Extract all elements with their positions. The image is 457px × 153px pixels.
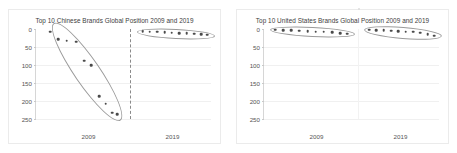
data-point-chinese-2009-8 xyxy=(104,103,107,106)
data-point-chinese-2009-5 xyxy=(83,59,86,62)
data-point-united-states-2019-4 xyxy=(390,30,393,33)
data-point-chinese-2019-7 xyxy=(185,32,188,35)
data-point-chinese-2019-10 xyxy=(206,33,209,36)
data-point-chinese-2009-1 xyxy=(49,31,52,34)
data-point-chinese-2019-3 xyxy=(156,31,159,34)
data-point-chinese-2009-6 xyxy=(90,64,93,67)
figure-canvas: Top 10 Chinese Brands Global Position 20… xyxy=(0,0,457,153)
data-point-united-states-2019-2 xyxy=(375,29,378,32)
data-point-united-states-2009-5 xyxy=(306,30,309,33)
stray-speck xyxy=(358,8,360,10)
gridline-chinese-50 xyxy=(36,47,211,48)
cluster-ellipse-united-states-cluster-2019 xyxy=(364,24,443,42)
y-tick-united-states-100: 100 xyxy=(250,62,260,69)
data-point-chinese-2009-7 xyxy=(98,95,101,98)
y-tick-mark-united-states-150 xyxy=(262,83,264,84)
data-point-chinese-2019-6 xyxy=(178,32,181,35)
gridline-united-states-250 xyxy=(264,119,439,120)
plot-area-chinese-brands: 2009 2019 050100150200250 xyxy=(35,29,211,119)
y-tick-mark-chinese-50 xyxy=(34,47,36,48)
data-point-united-states-2019-8 xyxy=(419,31,422,34)
y-tick-chinese-200: 200 xyxy=(22,98,32,105)
data-point-chinese-2019-4 xyxy=(163,31,166,34)
data-point-chinese-2019-5 xyxy=(171,31,174,34)
y-tick-chinese-0: 0 xyxy=(29,26,32,33)
data-point-united-states-2009-7 xyxy=(323,31,326,34)
data-point-united-states-2019-5 xyxy=(397,30,400,33)
gridline-united-states-50 xyxy=(264,47,439,48)
y-tick-mark-united-states-0 xyxy=(262,29,264,30)
data-point-chinese-2009-10 xyxy=(116,113,119,116)
y-tick-united-states-0: 0 xyxy=(257,26,260,33)
y-tick-mark-chinese-200 xyxy=(34,101,36,102)
data-point-united-states-2009-9 xyxy=(339,32,342,35)
gridline-chinese-100 xyxy=(36,65,211,66)
chart-panel-united-states-brands: Top 10 United States Brands Global Posit… xyxy=(236,9,449,144)
y-tick-united-states-250: 250 xyxy=(250,116,260,123)
data-point-chinese-2019-9 xyxy=(200,33,203,36)
y-tick-mark-united-states-50 xyxy=(262,47,264,48)
y-tick-united-states-200: 200 xyxy=(250,98,260,105)
data-point-chinese-2009-4 xyxy=(75,40,78,43)
data-point-united-states-2019-10 xyxy=(433,35,436,38)
y-tick-united-states-150: 150 xyxy=(250,80,260,87)
data-point-chinese-2009-3 xyxy=(65,40,68,43)
y-tick-chinese-100: 100 xyxy=(22,62,32,69)
data-point-united-states-2009-3 xyxy=(290,29,293,32)
gridline-united-states-200 xyxy=(264,101,439,102)
cluster-ellipse-chinese-cluster-2009 xyxy=(43,15,132,127)
plot-area-united-states-brands: 2009 2019 050100150200250 xyxy=(263,29,439,119)
x-tick-2009-right: 2009 xyxy=(310,133,324,140)
y-tick-mark-united-states-100 xyxy=(262,65,264,66)
gridline-chinese-250 xyxy=(36,119,211,120)
data-point-united-states-2019-9 xyxy=(427,33,430,36)
y-tick-mark-chinese-100 xyxy=(34,65,36,66)
data-point-united-states-2009-8 xyxy=(331,31,334,34)
x-tick-2009-left: 2009 xyxy=(82,133,96,140)
x-tick-2019-right: 2019 xyxy=(394,133,408,140)
data-point-united-states-2009-1 xyxy=(274,28,277,31)
page-title-united-states-brands: Top 10 United States Brands Global Posit… xyxy=(237,17,448,24)
page-title-chinese-brands: Top 10 Chinese Brands Global Position 20… xyxy=(9,17,220,24)
gridline-chinese-200 xyxy=(36,101,211,102)
y-tick-chinese-150: 150 xyxy=(22,80,32,87)
cluster-ellipse-chinese-cluster-2019 xyxy=(137,27,215,41)
data-point-united-states-2019-3 xyxy=(382,29,385,32)
data-point-chinese-2009-9 xyxy=(111,112,114,115)
data-point-chinese-2009-2 xyxy=(57,38,60,41)
data-point-united-states-2019-1 xyxy=(368,28,371,31)
year-divider-chinese xyxy=(130,29,131,119)
data-point-united-states-2009-6 xyxy=(314,30,317,33)
y-tick-chinese-250: 250 xyxy=(22,116,32,123)
gridline-united-states-100 xyxy=(264,65,439,66)
y-tick-mark-chinese-250 xyxy=(34,119,36,120)
data-point-chinese-2019-8 xyxy=(193,32,196,35)
y-tick-chinese-50: 50 xyxy=(25,44,32,51)
data-point-chinese-2019-1 xyxy=(141,30,144,33)
y-tick-united-states-50: 50 xyxy=(253,44,260,51)
gridline-chinese-150 xyxy=(36,83,211,84)
cluster-ellipse-united-states-cluster-2009 xyxy=(270,25,356,39)
year-divider-united-states xyxy=(358,29,359,119)
y-tick-mark-chinese-0 xyxy=(34,29,36,30)
data-point-united-states-2009-2 xyxy=(282,29,285,32)
data-point-united-states-2009-10 xyxy=(346,32,349,35)
data-point-united-states-2019-7 xyxy=(412,31,415,34)
data-point-united-states-2019-6 xyxy=(404,30,407,33)
y-tick-mark-united-states-250 xyxy=(262,119,264,120)
x-tick-2019-left: 2019 xyxy=(166,133,180,140)
gridline-united-states-150 xyxy=(264,83,439,84)
data-point-chinese-2019-2 xyxy=(149,30,152,33)
data-point-united-states-2009-4 xyxy=(298,30,301,33)
y-tick-mark-chinese-150 xyxy=(34,83,36,84)
chart-panel-chinese-brands: Top 10 Chinese Brands Global Position 20… xyxy=(8,9,221,144)
y-tick-mark-united-states-200 xyxy=(262,101,264,102)
